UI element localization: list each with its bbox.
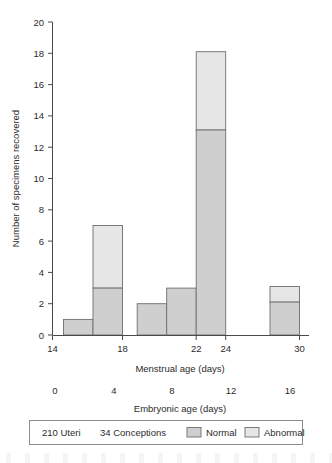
- x-axis-embryonic: 0 4 8 12 16 Embryonic age (days): [52, 385, 295, 414]
- legend-swatch-normal: [187, 428, 201, 438]
- y-tick-label: 20: [33, 17, 44, 28]
- x-tick-label: 24: [220, 343, 231, 354]
- page-caption-clipped: [0, 453, 332, 463]
- bar-segment-abnormal: [270, 287, 300, 303]
- y-axis-tick-labels: 0 2 4 6 8 10 12 14 16 18 20: [33, 17, 44, 341]
- y-tick-label: 8: [39, 204, 44, 215]
- x-tick-label-secondary: 4: [111, 385, 116, 396]
- bar-segment-abnormal: [93, 226, 123, 289]
- x-tick-label-secondary: 16: [285, 385, 296, 396]
- bar-segment-normal: [137, 304, 167, 335]
- y-tick-label: 10: [33, 173, 44, 184]
- y-tick-label: 6: [39, 236, 44, 247]
- x-tick-label: 18: [117, 343, 128, 354]
- x-tick-label: 14: [47, 343, 58, 354]
- x-tick-label-secondary: 12: [226, 385, 237, 396]
- y-axis-title: Number of specimens recovered: [10, 110, 21, 247]
- chart-legend: 210 Uteri 34 Conceptions Normal Abnormal: [30, 421, 305, 445]
- bar-group: [64, 319, 94, 335]
- y-tick-label: 12: [33, 142, 44, 153]
- legend-swatch-abnormal: [245, 428, 259, 438]
- x-tick-label-secondary: 8: [169, 385, 174, 396]
- bar-segment-normal: [196, 130, 226, 335]
- chart-plot-area: 0 2 4 6 8 10 12 14 16 18 20 Number of sp…: [0, 0, 332, 463]
- chart-figure: 0 2 4 6 8 10 12 14 16 18 20 Number of sp…: [0, 0, 332, 463]
- x-tick-label: 30: [294, 343, 305, 354]
- y-tick-label: 4: [39, 267, 44, 278]
- y-tick-label: 18: [33, 48, 44, 59]
- legend-item-uteri: 210 Uteri: [42, 427, 81, 438]
- x-axis-title-menstrual: Menstrual age (days): [135, 363, 224, 374]
- bar-segment-normal: [270, 302, 300, 335]
- y-tick-label: 14: [33, 110, 44, 121]
- x-axis-menstrual: 14 18 22 24 30 Menstrual age (days): [47, 336, 309, 375]
- bar-segment-normal: [167, 288, 197, 335]
- x-axis-secondary-tick-labels: 0 4 8 12 16: [52, 385, 295, 396]
- x-tick-label: 22: [191, 343, 202, 354]
- bar-group: [137, 304, 167, 335]
- bars-group: [64, 52, 300, 335]
- legend-item-abnormal: Abnormal: [264, 427, 305, 438]
- bar-segment-normal: [93, 288, 123, 335]
- bar-group: [196, 52, 226, 335]
- y-axis-ticks: [48, 22, 53, 335]
- bar-segment-abnormal: [196, 52, 226, 130]
- bar-group: [270, 287, 300, 336]
- bar-group: [93, 226, 123, 336]
- y-tick-label: 16: [33, 79, 44, 90]
- x-axis-tick-labels: 14 18 22 24 30: [47, 343, 305, 354]
- stacked-bar-chart: 0 2 4 6 8 10 12 14 16 18 20 Number of sp…: [0, 0, 332, 463]
- legend-item-conceptions: 34 Conceptions: [100, 427, 166, 438]
- bar-segment-normal: [64, 319, 94, 335]
- bar-group: [167, 288, 197, 335]
- x-axis-title-embryonic: Embryonic age (days): [134, 403, 226, 414]
- y-tick-label: 0: [39, 330, 44, 341]
- x-tick-label-secondary: 0: [52, 385, 57, 396]
- x-axis-ticks: [53, 336, 300, 341]
- y-axis: 0 2 4 6 8 10 12 14 16 18 20 Number of sp…: [10, 17, 53, 341]
- y-tick-label: 2: [39, 298, 44, 309]
- legend-item-normal: Normal: [206, 427, 237, 438]
